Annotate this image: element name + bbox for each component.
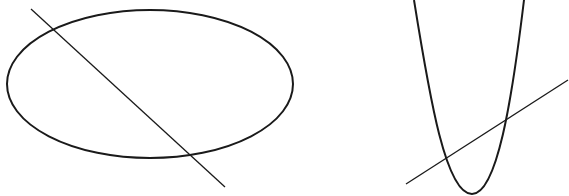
background [0,0,569,196]
diagram-canvas [0,0,569,196]
